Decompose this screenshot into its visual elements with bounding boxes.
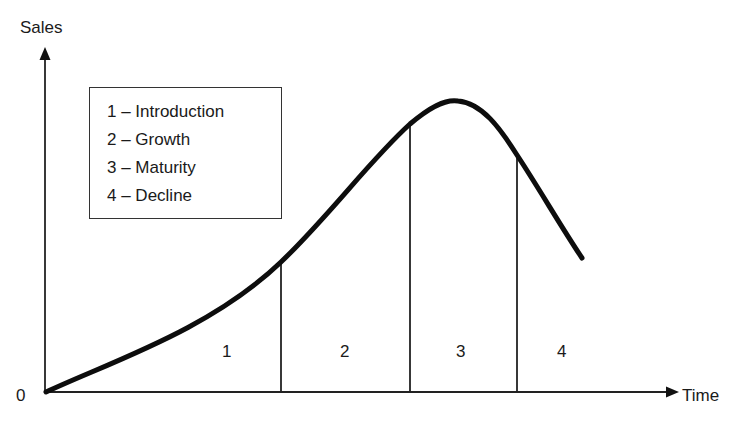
stage-label-2: 2 <box>340 343 349 360</box>
legend-item-growth: 2 – Growth <box>107 131 190 148</box>
stage-label-3: 3 <box>456 343 465 360</box>
legend-item-decline: 4 – Decline <box>107 187 192 204</box>
y-axis-arrow-icon <box>40 47 51 60</box>
legend-box: 1 – Introduction 2 – Growth 3 – Maturity… <box>89 87 282 219</box>
legend-item-introduction: 1 – Introduction <box>107 103 224 120</box>
stage-label-4: 4 <box>557 343 566 360</box>
origin-label: 0 <box>16 387 25 404</box>
x-axis-label: Time <box>682 387 719 404</box>
legend-item-maturity: 3 – Maturity <box>107 159 196 176</box>
y-axis-label: Sales <box>20 19 63 36</box>
x-axis-arrow-icon <box>666 387 679 398</box>
stage-label-1: 1 <box>222 343 231 360</box>
